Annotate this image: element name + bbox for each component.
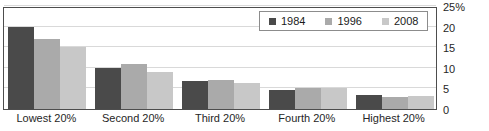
bar[interactable] — [60, 47, 86, 109]
bar[interactable] — [356, 95, 382, 109]
legend-item[interactable]: 2008 — [382, 16, 418, 27]
legend-label: 2008 — [394, 16, 418, 27]
bar-group — [178, 8, 265, 109]
bar[interactable] — [234, 83, 260, 109]
bar[interactable] — [147, 72, 173, 109]
bar[interactable] — [295, 88, 321, 109]
legend-swatch-icon — [382, 18, 389, 25]
cropped-title-text — [60, 0, 390, 2]
x-axis-tick-label: Lowest 20% — [3, 112, 90, 124]
x-axis-tick-label: Highest 20% — [350, 112, 437, 124]
y-axis-labels: 25%20151050 — [443, 0, 489, 131]
bar-chart: Lowest 20%Second 20%Third 20%Fourth 20%H… — [0, 0, 489, 131]
x-axis-tick-label: Third 20% — [177, 112, 264, 124]
legend-item[interactable]: 1996 — [325, 16, 361, 27]
y-axis-tick-label: 10 — [443, 64, 455, 75]
y-axis-tick-label: 0 — [443, 105, 449, 116]
bar[interactable] — [382, 97, 408, 109]
legend-item[interactable]: 1984 — [269, 16, 305, 27]
bar[interactable] — [121, 64, 147, 109]
legend-label: 1996 — [337, 16, 361, 27]
bar[interactable] — [408, 96, 434, 109]
gridline — [4, 5, 436, 6]
bar[interactable] — [208, 80, 234, 109]
y-axis-tick-label: 20 — [443, 23, 455, 34]
bar-group — [4, 8, 91, 109]
bar[interactable] — [8, 27, 34, 109]
legend-swatch-icon — [325, 18, 332, 25]
x-axis-tick-label: Second 20% — [90, 112, 177, 124]
bar[interactable] — [34, 39, 60, 109]
x-axis-tick-label: Fourth 20% — [263, 112, 350, 124]
legend: 198419962008 — [259, 11, 428, 31]
x-axis-labels: Lowest 20%Second 20%Third 20%Fourth 20%H… — [3, 112, 437, 130]
y-axis-tick-label: 15 — [443, 43, 455, 54]
bar-group — [91, 8, 178, 109]
y-axis-tick-label: 25% — [443, 2, 465, 13]
bar[interactable] — [182, 81, 208, 109]
legend-label: 1984 — [281, 16, 305, 27]
bar[interactable] — [321, 88, 347, 109]
legend-swatch-icon — [269, 18, 276, 25]
bar[interactable] — [269, 90, 295, 109]
y-axis-tick-label: 5 — [443, 84, 449, 95]
bar[interactable] — [95, 68, 121, 109]
